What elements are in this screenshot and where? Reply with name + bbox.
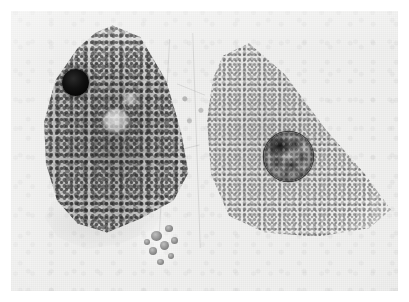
bleb [171,237,178,244]
left-cell-small-vacuole [123,93,138,106]
photographic-plate [11,11,398,291]
micrograph-figure [0,0,409,302]
membrane-bleb-cluster [141,217,237,279]
bleb [144,239,150,245]
bleb [149,247,157,255]
bleb [160,241,169,250]
bleb [157,259,164,265]
left-cell-nucleus [62,69,89,96]
nuclear-envelope [264,132,313,181]
right-cell-nucleus [264,132,313,181]
bleb [151,231,162,241]
bleb [165,225,173,232]
bleb [168,253,174,259]
left-cell-vacuole [103,109,129,133]
